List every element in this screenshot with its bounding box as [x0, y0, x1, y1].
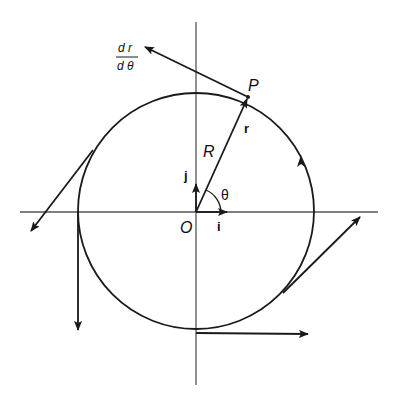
label-dr: d r: [118, 41, 133, 55]
label-r-vector: r: [244, 121, 249, 136]
label-O: O: [180, 219, 192, 236]
label-dtheta: d θ: [117, 59, 134, 73]
label-R: R: [203, 143, 215, 160]
circle-derivative-diagram: d r d θ P r R j θ O i: [0, 0, 398, 406]
tangent-vector-bottom: [196, 333, 308, 334]
label-theta: θ: [221, 187, 229, 203]
label-i: i: [217, 219, 221, 234]
tangent-vector-left-upper: [31, 150, 93, 231]
label-j: j: [183, 168, 188, 183]
label-p: P: [248, 77, 259, 94]
tangent-vector-right-lower: [283, 217, 360, 293]
angle-arc: [206, 190, 221, 212]
